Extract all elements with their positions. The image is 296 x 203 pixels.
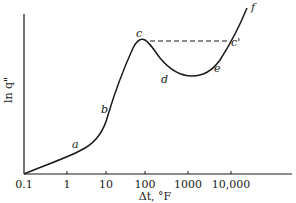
x-tick-0.1: 0.1 <box>15 178 33 191</box>
x-tick-1: 1 <box>64 178 71 191</box>
x-axis-title: Δt, °F <box>139 190 172 203</box>
point-label-c-prime: c' <box>231 36 240 49</box>
x-tick-1000: 1000 <box>174 178 202 191</box>
x-tick-10: 10 <box>99 178 113 191</box>
diagram-svg: 0.1 1 10 100 1000 10,000 Δt, °F ln q" a … <box>0 0 296 203</box>
point-label-b: b <box>101 103 108 116</box>
point-label-d: d <box>161 73 168 86</box>
point-label-e: e <box>214 62 221 75</box>
x-tick-10000: 10,000 <box>212 178 251 191</box>
y-axis-title: ln q" <box>2 77 15 103</box>
point-label-c: c <box>136 27 142 40</box>
point-label-a: a <box>72 138 79 151</box>
boiling-curve-diagram: 0.1 1 10 100 1000 10,000 Δt, °F ln q" a … <box>0 0 296 203</box>
point-label-f: f <box>250 1 257 14</box>
